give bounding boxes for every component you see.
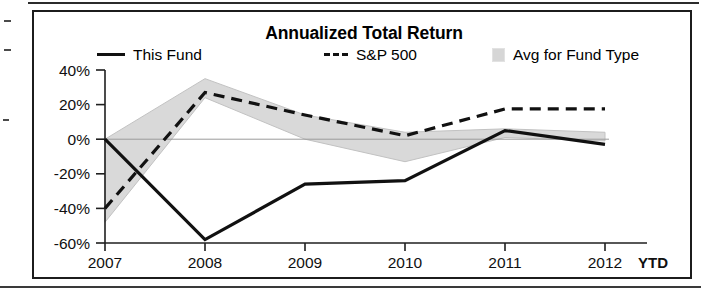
y-tick-label: 0% — [68, 131, 91, 148]
ytd-label: YTD — [638, 254, 668, 271]
avg-fund-type-band-area — [105, 79, 605, 223]
y-tick-label: -60% — [54, 235, 90, 252]
x-axis-tick-labels: 200720082009201020112012 — [88, 254, 622, 271]
scanned-page: Annualized Total Return This Fund S&P 50… — [0, 0, 701, 304]
y-axis-tick-labels: 40%20%0%-20%-40%-60% — [54, 62, 90, 252]
page-top-rule — [28, 2, 699, 4]
x-tick-label: 2009 — [288, 254, 322, 271]
x-axis-ytd-label: YTD — [638, 254, 668, 271]
y-tick-label: -20% — [54, 165, 90, 182]
chart-panel: Annualized Total Return This Fund S&P 50… — [32, 10, 692, 279]
chart-plot: 40%20%0%-20%-40%-60% 2007200820092010201… — [34, 12, 694, 281]
avg-fund-type-band — [105, 79, 605, 223]
y-tick-label: 40% — [59, 62, 90, 79]
page-margin-mark-2 — [4, 49, 11, 51]
page-margin-mark-3 — [3, 119, 9, 121]
x-tick-label: 2007 — [88, 254, 122, 271]
x-tick-label: 2012 — [588, 254, 622, 271]
x-tick-label: 2011 — [488, 254, 521, 271]
page-margin-mark-1 — [4, 20, 11, 22]
x-tick-label: 2008 — [188, 254, 222, 271]
y-tick-label: -40% — [54, 200, 90, 217]
page-bottom-rule — [0, 286, 701, 288]
x-tick-label: 2010 — [388, 254, 423, 271]
y-tick-label: 20% — [59, 96, 90, 113]
